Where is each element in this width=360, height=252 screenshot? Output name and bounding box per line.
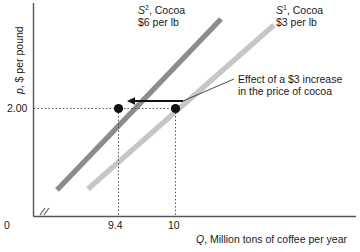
supply-curve-s2 — [57, 19, 221, 190]
supply-shift-chart: p, $ per pound Q, Million tons of coffee… — [0, 0, 360, 252]
equilibrium-point-original — [171, 104, 180, 113]
equilibrium-point-new — [114, 104, 123, 113]
chart-graphics — [0, 0, 360, 252]
x-axis-break-icon — [40, 208, 49, 215]
shift-arrow — [127, 97, 183, 105]
